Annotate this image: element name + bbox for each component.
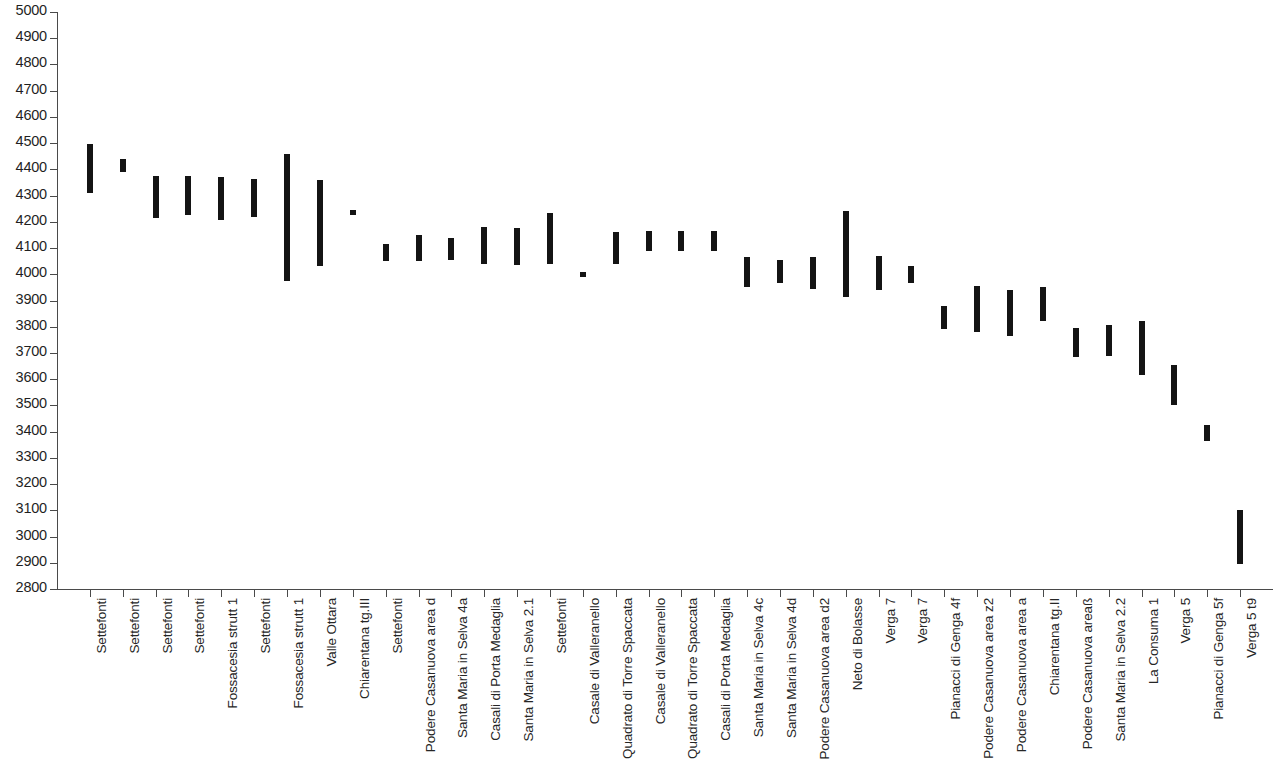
x-tick-mark: [287, 589, 288, 597]
range-bar: [777, 260, 783, 284]
x-tick-label: Chiarentana tg.III: [358, 598, 371, 699]
range-bar: [317, 180, 323, 267]
x-tick-label: Casali di Porta Medaglia: [719, 598, 732, 741]
x-tick-mark: [977, 589, 978, 597]
range-bar: [580, 272, 586, 277]
x-tick-mark: [1207, 589, 1208, 597]
x-tick-mark: [90, 589, 91, 597]
y-tick: 3200: [0, 484, 62, 485]
range-bar: [1237, 510, 1243, 564]
x-tick-label: Casale di Valleranello: [654, 598, 667, 724]
y-tick-label: 3700: [16, 344, 47, 358]
x-tick-label: Casale di Valleranello: [588, 598, 601, 724]
y-axis: 5000490048004700460045004400430042004100…: [0, 0, 62, 600]
y-tick-label: 4700: [16, 82, 47, 96]
y-tick-label: 4000: [16, 265, 47, 279]
y-tick: 2900: [0, 563, 62, 564]
x-tick-label: Verga 7: [884, 598, 897, 644]
y-tick-label: 3400: [16, 423, 47, 437]
y-tick-label: 4400: [16, 160, 47, 174]
x-tick-label: Neto di Bolasse: [851, 598, 864, 690]
range-bar: [843, 211, 849, 296]
x-tick-label: Podere Casanuova area a: [1015, 598, 1028, 752]
range-bar: [646, 231, 652, 251]
y-tick-label: 4900: [16, 29, 47, 43]
y-tick: 3700: [0, 353, 62, 354]
x-tick-mark: [1142, 589, 1143, 597]
range-bar: [1204, 425, 1210, 441]
x-tick-mark: [254, 589, 255, 597]
y-tick: 3000: [0, 537, 62, 538]
x-tick-label: Verga 5 t9: [1245, 598, 1258, 658]
range-bar: [876, 256, 882, 290]
range-bar: [613, 232, 619, 263]
x-tick-mark: [451, 589, 452, 597]
range-bar: [744, 257, 750, 287]
x-tick-label: Santa Maria in Selva 4a: [456, 598, 469, 738]
range-bar: [218, 177, 224, 220]
x-tick-mark: [583, 589, 584, 597]
x-tick-mark: [911, 589, 912, 597]
y-tick: 4100: [0, 248, 62, 249]
range-bar: [974, 286, 980, 332]
y-tick: 4200: [0, 222, 62, 223]
y-tick: 4000: [0, 274, 62, 275]
range-bar: [153, 176, 159, 218]
x-tick-mark: [747, 589, 748, 597]
x-tick-mark: [1240, 589, 1241, 597]
y-tick-label: 3100: [16, 501, 47, 515]
x-tick-mark: [123, 589, 124, 597]
range-bar: [251, 179, 257, 217]
x-tick-label: Quadrato di Torre Spaccata: [621, 598, 634, 759]
y-tick: 4300: [0, 196, 62, 197]
y-tick: 4600: [0, 117, 62, 118]
y-tick: 4900: [0, 38, 62, 39]
x-tick-label: Settefonti: [193, 598, 206, 654]
y-tick-label: 4800: [16, 55, 47, 69]
x-tick-mark: [649, 589, 650, 597]
plot-area: [57, 12, 1273, 589]
y-tick-label: 4500: [16, 134, 47, 148]
y-tick: 3900: [0, 301, 62, 302]
x-tick-label: Valle Ottara: [325, 598, 338, 666]
x-tick-label: Casali di Porta Medaglia: [489, 598, 502, 741]
range-bar: [1106, 325, 1112, 355]
x-tick-mark: [1109, 589, 1110, 597]
range-bar: [448, 238, 454, 260]
x-tick-mark: [1174, 589, 1175, 597]
range-bar: [416, 235, 422, 261]
range-bar: [120, 159, 126, 172]
y-tick: 3400: [0, 432, 62, 433]
x-tick-mark: [353, 589, 354, 597]
x-tick-mark: [484, 589, 485, 597]
x-tick-label: Pianacci di Genga 5f: [1212, 598, 1225, 720]
x-tick-mark: [550, 589, 551, 597]
x-tick-label: Santa Maria in Selva 2.2: [1114, 598, 1127, 741]
x-tick-mark: [386, 589, 387, 597]
x-tick-mark: [846, 589, 847, 597]
range-bar: [1171, 365, 1177, 406]
x-tick-mark: [714, 589, 715, 597]
y-tick-label: 3900: [16, 292, 47, 306]
y-tick-label: 5000: [16, 3, 47, 17]
x-tick-label: Settefonti: [391, 598, 404, 654]
x-tick-label: Settefonti: [555, 598, 568, 654]
range-bar: [1040, 287, 1046, 321]
x-tick-label: Chiarentana tg.II: [1048, 598, 1061, 695]
x-tick-label: Podere Casanuova areaß: [1081, 598, 1094, 749]
x-tick-mark: [188, 589, 189, 597]
x-tick-mark: [1043, 589, 1044, 597]
y-tick-label: 4100: [16, 239, 47, 253]
x-tick-label: Settefonti: [95, 598, 108, 654]
x-tick-label: Fossacesia strutt 1: [292, 598, 305, 708]
y-tick-label: 3500: [16, 396, 47, 410]
x-tick-label: Santa Maria in Selva 2.1: [522, 598, 535, 741]
y-tick: 4400: [0, 169, 62, 170]
y-tick: 4700: [0, 91, 62, 92]
y-tick: 4800: [0, 64, 62, 65]
y-tick-label: 3200: [16, 475, 47, 489]
x-tick-label: Settefonti: [259, 598, 272, 654]
y-tick-label: 4300: [16, 187, 47, 201]
range-bar: [908, 266, 914, 283]
y-tick-label: 4600: [16, 108, 47, 122]
